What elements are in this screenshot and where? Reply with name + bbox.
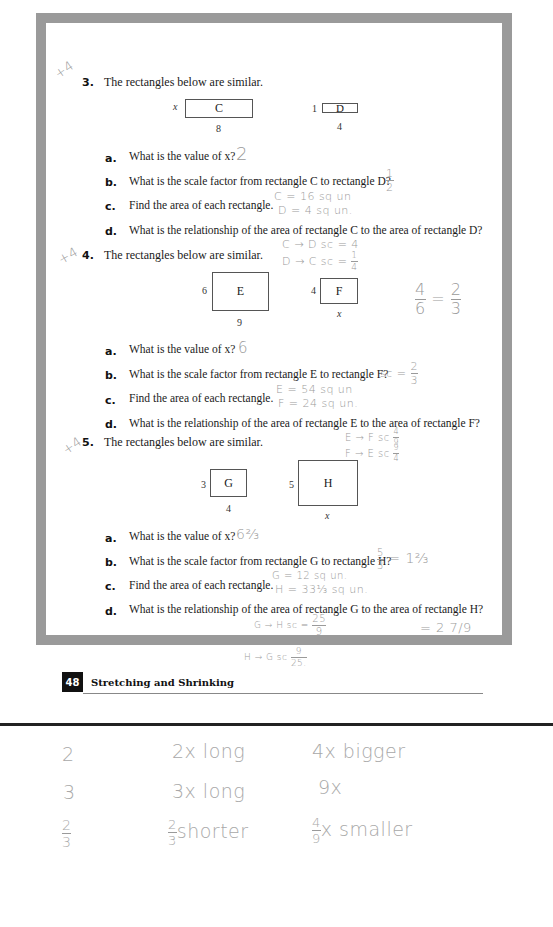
fraction-numerator: 4 [312, 816, 321, 829]
fraction-denominator: 4 [351, 263, 357, 272]
rectangle-h: H [298, 460, 358, 506]
unit-title: Stretching and Shrinking [91, 677, 234, 688]
answer-3d-line2: D → C sc = 14 [282, 251, 358, 272]
fraction-denominator: 4 [393, 455, 399, 463]
part-d-text: What is the relationship of the area of … [129, 417, 480, 429]
answer-prefix: F → E sc [345, 448, 390, 459]
page-number-badge: 48 [62, 672, 83, 692]
fraction-denominator: 2 [386, 182, 394, 193]
rect-h-side-label: 5 [289, 479, 294, 490]
part-c-text: Find the area of each rectangle. [129, 199, 273, 211]
answer-5c-line1: G = 12 sq un. [272, 570, 347, 581]
part-d-letter: d. [105, 418, 117, 431]
part-a-letter: a. [105, 345, 117, 358]
answer-4c-line2: F = 24 sq un. [278, 397, 358, 410]
part-d-text: What is the relationship of the area of … [129, 224, 482, 236]
problem-number: 4. [82, 249, 94, 262]
fraction-numerator: 9 [393, 444, 399, 452]
problem-number: 3. [82, 76, 94, 89]
rect-g-label: G [224, 476, 233, 491]
rect-e-label: E [237, 284, 244, 299]
problem-number: 5. [82, 436, 94, 449]
answer-prefix: H → G sc [244, 652, 288, 662]
problem-prompt: The rectangles below are similar. [104, 435, 263, 450]
rect-d-bottom-label: 4 [337, 121, 342, 132]
worksheet-frame [36, 13, 512, 645]
rect-e-side-label: 6 [202, 285, 207, 296]
answer-3a: 2 [236, 143, 248, 164]
answer-5a: 6⅔ [236, 526, 259, 542]
answer-3c-line1: C = 16 sq un [274, 190, 352, 203]
answer-prefix: D → C sc = [282, 255, 347, 268]
rectangle-g: G [210, 469, 247, 497]
rectangle-f: F [320, 278, 358, 304]
answer-5b: 53 = 1⅔ [377, 548, 429, 571]
problem-prompt: The rectangles below are similar. [104, 248, 263, 263]
fraction-denominator: 9 [312, 832, 321, 845]
fraction-numerator: 1 [351, 251, 357, 260]
part-b-letter: b. [105, 176, 117, 189]
answer-3b: 12 [386, 168, 394, 193]
note-row1-col3: 4x bigger [312, 740, 406, 762]
fraction-denominator: 3 [377, 561, 384, 571]
part-a-text: What is the value of x? [129, 343, 235, 355]
fraction-numerator: 2 [62, 818, 71, 832]
rect-d-label: D [336, 102, 344, 114]
fraction-denominator: 3 [451, 301, 462, 317]
rect-c-bottom-label: 8 [216, 123, 221, 134]
part-b-text: What is the scale factor from rectangle … [129, 368, 388, 380]
fraction-denominator: 3 [168, 834, 177, 847]
fraction-numerator: 4 [415, 282, 426, 298]
rect-e-bottom-label: 9 [237, 317, 242, 328]
rectangle-c: C [185, 99, 253, 118]
rect-h-bottom-label: x [325, 510, 329, 521]
note-row1-col1: 2 [62, 743, 75, 765]
answer-5d-line2: H → G sc 925. [244, 647, 307, 668]
fraction-denominator: 3 [411, 375, 419, 386]
fraction-denominator: 25. [291, 659, 307, 668]
rect-f-label: F [336, 284, 343, 299]
fraction-numerator: 1 [386, 168, 394, 179]
part-d-letter: d. [105, 605, 117, 618]
problem-prompt: The rectangles below are similar. [104, 75, 263, 90]
note-row2-col1: 3 [63, 781, 76, 803]
footer-rule [83, 693, 483, 694]
rect-f-bottom-label: x [337, 308, 341, 319]
part-d-letter: d. [105, 225, 117, 238]
rect-g-side-label: 3 [201, 479, 206, 490]
answer-3d-line1: C → D sc = 4 [282, 238, 359, 251]
rect-d-side-label: 1 [312, 103, 317, 114]
part-b-letter: b. [105, 556, 117, 569]
part-b-letter: b. [105, 369, 117, 382]
answer-5d-side: = 2 7/9 [420, 620, 472, 635]
answer-4a: 6 [238, 339, 248, 357]
part-c-letter: c. [105, 394, 116, 407]
answer-5c-line2: H = 33⅓ sq un. [275, 583, 368, 596]
answer-3c-line2: D = 4 sq un. [278, 204, 353, 217]
fraction-denominator: 6 [415, 301, 426, 317]
part-b-text: What is the scale factor from rectangle … [129, 555, 391, 567]
fraction-numerator: 25 [312, 614, 326, 624]
fraction-numerator: 5 [377, 548, 384, 558]
fraction-denominator: 9 [316, 627, 323, 637]
note-row2-col3: 9x [318, 776, 342, 798]
note-text: x smaller [321, 818, 413, 840]
part-c-text: Find the area of each rectangle. [129, 392, 273, 404]
answer-prefix: E → F sc [345, 432, 390, 443]
part-c-letter: c. [105, 200, 116, 213]
part-a-letter: a. [105, 532, 117, 545]
rectangle-e: E [212, 272, 269, 311]
answer-4b: sc = 23 [380, 361, 418, 386]
answer-prefix: sc = [380, 367, 407, 380]
fraction-numerator: 2 [451, 282, 462, 298]
rectangle-d: D [322, 103, 358, 113]
fraction-numerator: 4 [393, 428, 399, 436]
side-note-ratio: 46 = 23 [415, 282, 461, 317]
rect-h-label: H [324, 476, 333, 491]
note-row1-col2: 2x long [172, 740, 245, 762]
part-a-text: What is the value of x? [129, 150, 235, 162]
fraction-numerator: 2 [168, 818, 177, 831]
part-b-text: What is the scale factor from rectangle … [129, 175, 391, 187]
rect-c-label: C [215, 101, 223, 116]
answer-4c-line1: E = 54 sq un [276, 383, 353, 396]
